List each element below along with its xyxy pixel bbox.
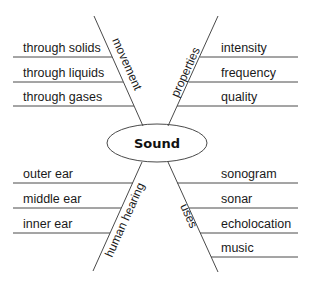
item-middle-ear: middle ear <box>23 192 81 206</box>
item-music: music <box>221 241 254 255</box>
item-intensity: intensity <box>221 41 268 55</box>
branch-label-properties: properties <box>168 45 203 99</box>
item-through-gases: through gases <box>23 90 102 104</box>
branch-uses: uses sonogram sonar echolocation music <box>168 162 298 272</box>
sound-concept-map: Sound movement through solids through li… <box>0 0 311 282</box>
item-echolocation: echolocation <box>221 217 291 231</box>
branch-label-human-hearing: human hearing <box>102 180 148 259</box>
item-sonogram: sonogram <box>221 167 277 181</box>
branch-line-human-hearing <box>93 162 142 271</box>
item-quality: quality <box>221 90 258 104</box>
branch-label-uses: uses <box>177 201 200 230</box>
item-through-solids: through solids <box>23 41 101 55</box>
item-frequency: frequency <box>221 66 277 80</box>
center-label: Sound <box>134 136 180 151</box>
item-inner-ear: inner ear <box>23 217 72 231</box>
branch-properties: properties intensity frequency quality <box>168 16 298 126</box>
item-outer-ear: outer ear <box>23 167 73 181</box>
branch-label-movement: movement <box>109 36 145 93</box>
branch-human-hearing: human hearing outer ear middle ear inner… <box>13 162 148 271</box>
item-sonar: sonar <box>221 192 252 206</box>
branch-movement: movement through solids through liquids … <box>13 16 145 126</box>
item-through-liquids: through liquids <box>23 66 104 80</box>
